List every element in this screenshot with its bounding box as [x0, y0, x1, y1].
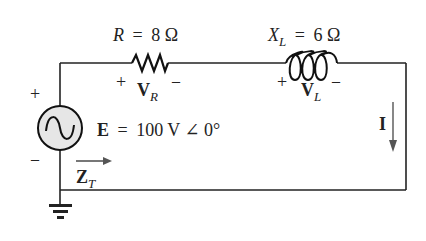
inductor-label: XL = 6 Ω [267, 25, 340, 50]
current-label: I [379, 114, 386, 134]
impedance-arrow-icon [76, 157, 112, 165]
inductor-minus-sign: – [331, 72, 341, 89]
ac-sine-source-icon [38, 106, 82, 150]
inductor-voltage-label: VL [301, 80, 321, 104]
circuit-diagram: R = 8 Ω + – VR XL = 6 Ω + – VL + – E = 1… [0, 0, 426, 241]
current-arrow-icon [389, 102, 397, 152]
ground-icon [49, 204, 72, 219]
inductor-plus-sign: + [277, 72, 287, 92]
resistor-plus-sign: + [116, 72, 126, 92]
resistor-minus-sign: – [171, 72, 181, 89]
inductor-icon [286, 51, 337, 80]
resistor-icon [132, 55, 168, 71]
resistor-voltage-label: VR [137, 80, 158, 104]
total-impedance-label: ZT [76, 167, 96, 191]
resistor-label: R = 8 Ω [112, 25, 178, 45]
source-plus-sign: + [30, 84, 40, 104]
source-minus-sign: – [30, 150, 40, 167]
source-label: E = 100 V ∠ 0° [97, 120, 220, 140]
